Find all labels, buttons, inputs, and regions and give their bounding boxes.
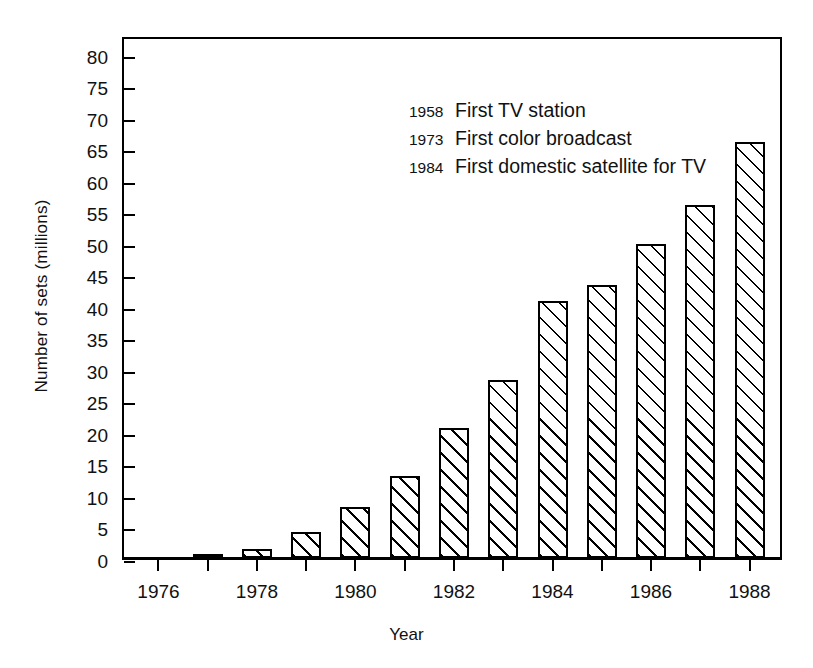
- y-tick-mark: [124, 309, 135, 311]
- x-tick-mark: [502, 558, 504, 571]
- y-tick-mark: [124, 246, 135, 248]
- y-tick-label: 15: [62, 457, 108, 476]
- bar: [193, 554, 223, 558]
- y-tick-label: 30: [62, 363, 108, 382]
- y-tick-label: 40: [62, 300, 108, 319]
- y-tick-mark: [124, 561, 135, 563]
- x-tick-mark: [305, 558, 307, 571]
- x-tick-mark: [601, 558, 603, 571]
- y-tick-mark: [124, 466, 135, 468]
- x-tick-mark: [404, 558, 406, 571]
- y-tick-label: 0: [62, 552, 108, 571]
- y-tick-mark: [124, 340, 135, 342]
- y-tick-mark: [124, 183, 135, 185]
- annotation-text: First domestic satellite for TV: [455, 155, 706, 177]
- y-tick-mark: [124, 403, 135, 405]
- x-axis-title: Year: [0, 625, 813, 645]
- y-tick-label: 35: [62, 331, 108, 350]
- annotation-list: 1958First TV station1973First color broa…: [409, 97, 706, 181]
- x-tick-label: 1984: [513, 582, 593, 601]
- y-tick-mark: [124, 57, 135, 59]
- y-tick-label: 10: [62, 489, 108, 508]
- annotation-year: 1973: [409, 126, 455, 153]
- chart-figure: Number of sets (millions) Year 051015202…: [0, 0, 813, 668]
- x-tick-label: 1988: [710, 582, 790, 601]
- x-tick-mark: [256, 558, 258, 571]
- y-tick-label: 25: [62, 394, 108, 413]
- annotation-item: 1973First color broadcast: [409, 125, 706, 153]
- y-tick-mark: [124, 498, 135, 500]
- x-tick-mark: [453, 558, 455, 571]
- y-tick-mark: [124, 120, 135, 122]
- x-tick-mark: [354, 558, 356, 571]
- y-tick-mark: [124, 372, 135, 374]
- y-tick-label: 70: [62, 111, 108, 130]
- y-tick-label: 80: [62, 48, 108, 67]
- bar: [488, 380, 518, 558]
- annotation-text: First TV station: [455, 99, 586, 121]
- x-tick-label: 1980: [315, 582, 395, 601]
- bar: [242, 549, 272, 558]
- annotation-year: 1984: [409, 154, 455, 181]
- annotation-year: 1958: [409, 98, 455, 125]
- y-tick-label: 50: [62, 237, 108, 256]
- y-tick-mark: [124, 435, 135, 437]
- x-tick-label: 1982: [414, 582, 494, 601]
- bar: [636, 244, 666, 558]
- x-tick-mark: [699, 558, 701, 571]
- x-tick-mark: [157, 558, 159, 571]
- annotation-item: 1984First domestic satellite for TV: [409, 153, 706, 181]
- y-tick-label: 65: [62, 142, 108, 161]
- annotation-text: First color broadcast: [455, 127, 632, 149]
- x-tick-mark: [207, 558, 209, 571]
- y-tick-mark: [124, 88, 135, 90]
- x-tick-mark: [650, 558, 652, 571]
- y-tick-label: 60: [62, 174, 108, 193]
- bar: [340, 507, 370, 558]
- y-tick-label: 75: [62, 79, 108, 98]
- bar: [735, 142, 765, 558]
- x-tick-mark: [749, 558, 751, 571]
- plot-area: 05101520253035404550556065707580 1976197…: [122, 37, 782, 560]
- x-tick-label: 1986: [611, 582, 691, 601]
- annotation-item: 1958First TV station: [409, 97, 706, 125]
- x-tick-mark: [552, 558, 554, 571]
- bar: [538, 301, 568, 558]
- y-tick-label: 20: [62, 426, 108, 445]
- y-tick-mark: [124, 529, 135, 531]
- y-axis-title: Number of sets (millions): [32, 136, 52, 456]
- y-tick-label: 55: [62, 205, 108, 224]
- x-tick-label: 1978: [217, 582, 297, 601]
- bar: [439, 428, 469, 558]
- y-tick-label: 45: [62, 268, 108, 287]
- bar: [291, 532, 321, 558]
- y-tick-mark: [124, 214, 135, 216]
- bar: [685, 205, 715, 558]
- x-tick-label: 1976: [118, 582, 198, 601]
- bar: [390, 476, 420, 558]
- bar: [587, 285, 617, 558]
- y-tick-label: 5: [62, 520, 108, 539]
- y-tick-mark: [124, 151, 135, 153]
- y-tick-mark: [124, 277, 135, 279]
